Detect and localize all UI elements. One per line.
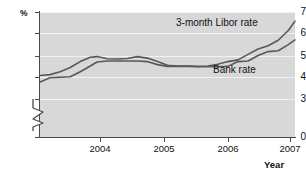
series-line-libor: [40, 21, 295, 75]
series-line-bank: [40, 40, 295, 82]
series-label-libor: 3-month Libor rate: [176, 17, 258, 28]
series-layer: [0, 0, 306, 183]
series-label-bank: Bank rate: [213, 64, 256, 75]
chart-container: 7 6 5 4 3 0 2004 2005 2006 2007 % Year 3…: [0, 0, 306, 183]
